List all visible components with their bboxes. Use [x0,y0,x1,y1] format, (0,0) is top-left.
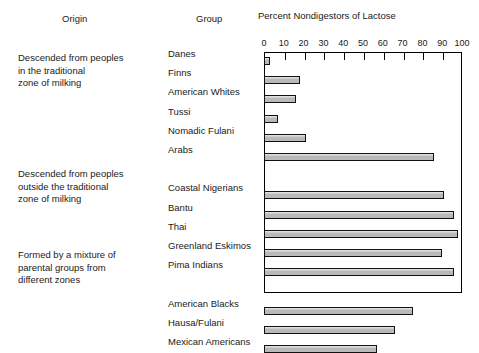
chart-bar [264,115,278,123]
chart-bar [264,57,270,65]
group-label: Pima Indians [168,259,223,270]
group-label: Bantu [168,202,193,213]
group-label: Nomadic Fulani [168,125,234,136]
origin-line: parental groups from [18,262,168,275]
origin-line: zone of milking [18,77,168,90]
chart-bar [264,268,454,276]
origin-line: Formed by a mixture of [18,249,168,262]
chart-bar [264,76,300,84]
group-label: Thai [168,221,186,232]
group-label: Mexican Americans [168,336,250,347]
group-label: Coastal Nigerians [168,182,243,193]
chart-bars [264,52,462,293]
origin-description-0: Descended from peoplesin the traditional… [18,52,168,90]
group-label: Danes [168,48,195,59]
chart-axis-title: Percent Nondigestors of Lactose [258,10,396,21]
axis-tick-label: 90 [437,38,447,48]
origin-description-2: Formed by a mixture ofparental groups fr… [18,249,168,287]
group-label: Finns [168,67,191,78]
chart-bar [264,134,306,142]
axis-tick-labels: 0102030405060708090100 [264,38,474,52]
chart-bar [264,211,454,219]
group-label: Arabs [168,144,193,155]
axis-tick-label: 80 [417,38,427,48]
chart-bar [264,326,395,334]
axis-tick-label: 30 [318,38,328,48]
origin-line: Descended from peoples [18,52,168,65]
origin-description-1: Descended from peoplesoutside the tradit… [18,168,168,206]
axis-tick-label: 0 [261,38,266,48]
group-label: Greenland Eskimos [168,240,251,251]
axis-tick-label: 60 [378,38,388,48]
axis-tick-label: 40 [338,38,348,48]
chart-bar [264,230,458,238]
chart-bar [264,191,444,199]
group-label: American Blacks [168,298,239,309]
chart-bar [264,153,434,161]
group-label: Tussi [168,106,190,117]
chart-bar [264,249,442,257]
origin-line: different zones [18,274,168,287]
group-label-column: DanesFinnsAmerican WhitesTussiNomadic Fu… [168,0,262,320]
chart-bar [264,345,377,353]
chart-bar [264,307,413,315]
origin-line: zone of milking [18,193,168,206]
column-header-origin: Origin [62,13,87,24]
origin-line: in the traditional [18,65,168,78]
group-label: Hausa/Fulani [168,317,224,328]
axis-tick-label: 100 [454,38,469,48]
origin-line: outside the traditional [18,181,168,194]
axis-tick-label: 50 [358,38,368,48]
axis-tick-label: 20 [299,38,309,48]
chart-bar [264,95,296,103]
origin-line: Descended from peoples [18,168,168,181]
axis-tick-label: 10 [279,38,289,48]
axis-tick-label: 70 [398,38,408,48]
group-label: American Whites [168,86,240,97]
